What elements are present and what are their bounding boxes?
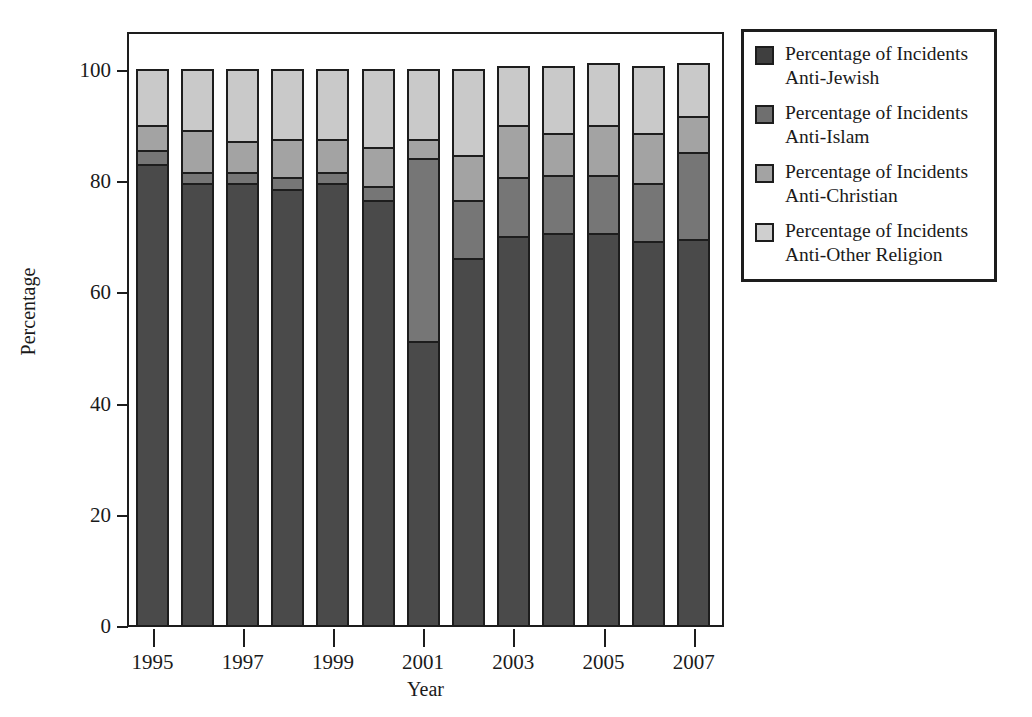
bar-segment-2002-anti-other-religion[interactable]	[452, 69, 485, 157]
bar-segment-2001-anti-jewish[interactable]	[407, 341, 440, 627]
x-axis-tick	[423, 629, 425, 647]
legend-swatch-icon-anti-christian	[755, 164, 774, 183]
bar-segment-1998-anti-christian[interactable]	[271, 139, 304, 180]
x-axis-tick-label: 1999	[288, 650, 378, 674]
bar-segment-2006-anti-islam[interactable]	[632, 183, 665, 243]
bar-segment-1996-anti-jewish[interactable]	[181, 183, 214, 627]
y-axis-tick	[117, 292, 128, 294]
bar-segment-1995-anti-christian[interactable]	[136, 125, 169, 152]
y-axis-tick-label: 0	[47, 616, 111, 637]
bar-1998[interactable]	[271, 71, 304, 627]
x-axis-tick	[243, 629, 245, 647]
bar-segment-2004-anti-islam[interactable]	[542, 175, 575, 235]
legend-swatch-icon-anti-jewish	[755, 46, 774, 65]
bar-segment-1997-anti-other-religion[interactable]	[226, 69, 259, 143]
bar-segment-2000-anti-jewish[interactable]	[362, 200, 395, 627]
legend-label-anti-other-religion: Percentage of Incidents Anti-Other Relig…	[785, 219, 968, 267]
x-axis-tick	[153, 629, 155, 647]
bar-segment-1999-anti-jewish[interactable]	[316, 183, 349, 627]
bar-1996[interactable]	[181, 71, 214, 627]
bar-segment-1997-anti-christian[interactable]	[226, 141, 259, 174]
bar-1999[interactable]	[316, 71, 349, 627]
legend-item-anti-jewish[interactable]: Percentage of Incidents Anti-Jewish	[755, 42, 985, 90]
legend-item-anti-islam[interactable]: Percentage of Incidents Anti-Islam	[755, 101, 985, 149]
y-axis-tick	[117, 181, 128, 183]
chart-figure: Percentage Year Percentage of Incidents …	[0, 0, 1032, 717]
x-axis-tick-label: 2005	[559, 650, 649, 674]
y-axis-tick-label: 20	[47, 505, 111, 526]
bar-segment-1995-anti-jewish[interactable]	[136, 164, 169, 627]
bar-segment-2007-anti-other-religion[interactable]	[677, 63, 710, 118]
x-axis-tick-label: 2001	[378, 650, 468, 674]
legend-item-anti-other-religion[interactable]: Percentage of Incidents Anti-Other Relig…	[755, 219, 985, 267]
bar-segment-2003-anti-christian[interactable]	[497, 125, 530, 180]
bar-segment-2002-anti-islam[interactable]	[452, 200, 485, 260]
bar-segment-2001-anti-islam[interactable]	[407, 158, 440, 343]
bar-2002[interactable]	[452, 71, 485, 627]
x-axis-tick	[604, 629, 606, 647]
bar-segment-2004-anti-christian[interactable]	[542, 133, 575, 177]
x-axis-title: Year	[127, 678, 724, 701]
bar-segment-2006-anti-jewish[interactable]	[632, 241, 665, 627]
bar-segment-2003-anti-other-religion[interactable]	[497, 66, 530, 126]
bar-segment-1995-anti-other-religion[interactable]	[136, 69, 169, 127]
bar-segment-1998-anti-other-religion[interactable]	[271, 69, 304, 141]
legend-label-anti-islam: Percentage of Incidents Anti-Islam	[785, 101, 968, 149]
bar-segment-2005-anti-christian[interactable]	[587, 125, 620, 177]
bar-segment-2007-anti-jewish[interactable]	[677, 239, 710, 627]
bar-2005[interactable]	[587, 71, 620, 627]
bar-2007[interactable]	[677, 71, 710, 627]
x-axis-tick-label: 1995	[108, 650, 198, 674]
y-axis-tick-label: 100	[47, 60, 111, 81]
bar-segment-2000-anti-christian[interactable]	[362, 147, 395, 188]
bar-2001[interactable]	[407, 71, 440, 627]
legend-label-anti-jewish: Percentage of Incidents Anti-Jewish	[785, 42, 968, 90]
legend-swatch-icon-anti-islam	[755, 105, 774, 124]
bar-segment-2007-anti-christian[interactable]	[677, 116, 710, 154]
bar-segment-2001-anti-other-religion[interactable]	[407, 69, 440, 141]
x-axis-tick	[333, 629, 335, 647]
y-axis-tick	[117, 626, 128, 628]
bar-segment-2000-anti-other-religion[interactable]	[362, 69, 395, 149]
bar-segment-2003-anti-jewish[interactable]	[497, 236, 530, 627]
x-axis-tick	[694, 629, 696, 647]
bar-segment-2003-anti-islam[interactable]	[497, 177, 530, 237]
bar-segment-2001-anti-christian[interactable]	[407, 139, 440, 160]
bar-2004[interactable]	[542, 71, 575, 627]
bar-segment-2006-anti-other-religion[interactable]	[632, 66, 665, 135]
y-axis-tick	[117, 515, 128, 517]
x-axis-tick-label: 2007	[649, 650, 739, 674]
bar-segment-2006-anti-christian[interactable]	[632, 133, 665, 185]
y-axis-tick-label: 60	[47, 282, 111, 303]
y-axis-title: Percentage	[17, 212, 40, 412]
bar-segment-2005-anti-other-religion[interactable]	[587, 63, 620, 126]
bar-segment-1996-anti-christian[interactable]	[181, 130, 214, 174]
legend-item-anti-christian[interactable]: Percentage of Incidents Anti-Christian	[755, 160, 985, 208]
y-axis-tick-label: 40	[47, 394, 111, 415]
bar-segment-1999-anti-other-religion[interactable]	[316, 69, 349, 141]
y-axis-tick	[117, 70, 128, 72]
bar-segment-2004-anti-other-religion[interactable]	[542, 66, 575, 135]
bar-segment-1999-anti-christian[interactable]	[316, 139, 349, 174]
bar-2003[interactable]	[497, 71, 530, 627]
bar-segment-1998-anti-jewish[interactable]	[271, 189, 304, 627]
x-axis-tick-label: 2003	[468, 650, 558, 674]
bar-segment-2005-anti-islam[interactable]	[587, 175, 620, 235]
bar-2006[interactable]	[632, 71, 665, 627]
bar-segment-2002-anti-christian[interactable]	[452, 155, 485, 201]
x-axis-tick	[513, 629, 515, 647]
bar-segment-1997-anti-jewish[interactable]	[226, 183, 259, 627]
bar-segment-2005-anti-jewish[interactable]	[587, 233, 620, 627]
bar-segment-1996-anti-other-religion[interactable]	[181, 69, 214, 132]
bar-segment-2007-anti-islam[interactable]	[677, 152, 710, 240]
bar-1997[interactable]	[226, 71, 259, 627]
y-axis-tick-label: 80	[47, 171, 111, 192]
bar-segment-1995-anti-islam[interactable]	[136, 150, 169, 166]
bar-segment-2004-anti-jewish[interactable]	[542, 233, 575, 627]
bar-2000[interactable]	[362, 71, 395, 627]
bar-segment-2000-anti-islam[interactable]	[362, 186, 395, 202]
bar-segment-2002-anti-jewish[interactable]	[452, 258, 485, 627]
legend-label-anti-christian: Percentage of Incidents Anti-Christian	[785, 160, 968, 208]
bar-1995[interactable]	[136, 71, 169, 627]
x-axis-tick-label: 1997	[198, 650, 288, 674]
